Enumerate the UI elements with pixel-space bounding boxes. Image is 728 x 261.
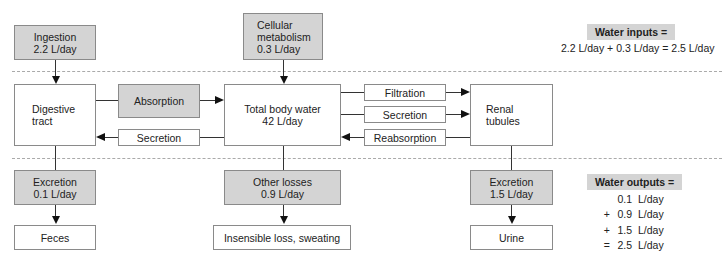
output-value: 2.5 xyxy=(610,239,632,251)
secretion-renal-label: Secretion xyxy=(383,109,427,121)
output-unit: L/day xyxy=(638,193,664,205)
ingestion-label: Ingestion xyxy=(33,31,76,43)
ingestion-value: 2.2 L/day xyxy=(33,43,76,55)
secretion-gi-box: Secretion xyxy=(118,129,200,146)
body-output-line xyxy=(283,146,284,170)
output-unit: L/day xyxy=(638,224,664,236)
arrowhead-down-icon xyxy=(52,76,60,84)
renal-tubules-box: Renal tubules xyxy=(470,84,553,146)
secretion-renal-line-out xyxy=(446,114,462,115)
arrowhead-down-icon xyxy=(280,216,288,224)
total-body-water-box: Total body water 42 L/day xyxy=(224,84,341,146)
renal-label-1: Renal xyxy=(486,103,520,115)
renal-excretion-box: Excretion 1.5 L/day xyxy=(470,170,553,205)
filtration-label: Filtration xyxy=(385,87,425,99)
absorption-box: Absorption xyxy=(118,84,200,118)
output-unit: L/day xyxy=(638,208,664,220)
renal-excretion-label: Excretion xyxy=(490,176,534,188)
renal-output-line xyxy=(511,146,512,170)
arrowhead-left-icon xyxy=(96,133,105,141)
output-op: + xyxy=(600,208,610,220)
body-water-value: 42 L/day xyxy=(244,115,320,127)
metabolism-label-2: metabolism xyxy=(257,31,311,43)
gi-excretion-box: Excretion 0.1 L/day xyxy=(14,170,96,205)
other-losses-label: Other losses xyxy=(253,176,312,188)
arrowhead-down-icon xyxy=(280,76,288,84)
secretion-renal-box: Secretion xyxy=(364,106,446,123)
gi-excretion-value: 0.1 L/day xyxy=(33,188,77,200)
absorption-label: Absorption xyxy=(134,95,184,107)
insensible-label: Insensible loss, sweating xyxy=(224,232,340,244)
arrowhead-right-icon xyxy=(461,88,470,96)
other-losses-box: Other losses 0.9 L/day xyxy=(224,170,341,205)
output-unit: L/day xyxy=(638,239,664,251)
gi-output-line xyxy=(55,146,56,170)
output-row: 0.1L/day xyxy=(600,193,664,205)
output-row: =2.5L/day xyxy=(600,239,664,251)
reabsorption-label: Reabsorption xyxy=(374,132,436,144)
gi-excretion-label: Excretion xyxy=(33,176,77,188)
renal-label-2: tubules xyxy=(486,115,520,127)
filtration-line-out xyxy=(446,92,462,93)
feces-label: Feces xyxy=(41,232,70,244)
secretion-renal-line-in xyxy=(341,114,364,115)
reabsorption-box: Reabsorption xyxy=(364,129,446,146)
arrowhead-right-icon xyxy=(215,96,224,104)
reabsorption-line-out xyxy=(349,137,364,138)
filtration-box: Filtration xyxy=(364,84,446,101)
ingestion-arrow xyxy=(55,60,56,77)
digestive-label-1: Digestive xyxy=(32,103,75,115)
output-row: +0.9L/day xyxy=(600,208,664,220)
output-op: + xyxy=(600,224,610,236)
insensible-loss-box: Insensible loss, sweating xyxy=(213,225,351,250)
reabsorption-line-in xyxy=(446,137,470,138)
urine-box: Urine xyxy=(470,225,553,250)
body-water-label: Total body water xyxy=(244,103,320,115)
absorption-line-out xyxy=(200,100,216,101)
output-op: = xyxy=(600,239,610,251)
filtration-line-in xyxy=(341,92,364,93)
arrowhead-down-icon xyxy=(508,216,516,224)
arrowhead-down-icon xyxy=(52,216,60,224)
arrowhead-left-icon xyxy=(341,133,350,141)
water-outputs-title: Water outputs = xyxy=(587,174,682,190)
digestive-label-2: tract xyxy=(32,115,75,127)
secretion-gi-label: Secretion xyxy=(137,132,181,144)
digestive-tract-box: Digestive tract xyxy=(14,84,96,146)
other-losses-value: 0.9 L/day xyxy=(253,188,312,200)
water-inputs-equation: 2.2 L/day + 0.3 L/day = 2.5 L/day xyxy=(561,42,715,54)
metabolism-value: 0.3 L/day xyxy=(257,43,311,55)
arrowhead-right-icon xyxy=(461,110,470,118)
secretion-gi-line-out xyxy=(104,137,118,138)
urine-label: Urine xyxy=(499,232,524,244)
output-value: 0.9 xyxy=(610,208,632,220)
water-inputs-title: Water inputs = xyxy=(587,24,675,40)
metabolism-label-1: Cellular xyxy=(257,19,311,31)
output-separator xyxy=(12,158,722,159)
metabolism-box: Cellular metabolism 0.3 L/day xyxy=(243,13,323,60)
renal-excretion-value: 1.5 L/day xyxy=(490,188,534,200)
output-row: +1.5L/day xyxy=(600,224,664,236)
secretion-gi-line-in xyxy=(200,137,224,138)
ingestion-box: Ingestion 2.2 L/day xyxy=(14,25,96,60)
input-separator xyxy=(12,71,722,72)
feces-box: Feces xyxy=(14,225,96,250)
metabolism-arrow xyxy=(283,60,284,77)
output-value: 1.5 xyxy=(610,224,632,236)
output-value: 0.1 xyxy=(610,193,632,205)
absorption-line-in xyxy=(96,100,118,101)
